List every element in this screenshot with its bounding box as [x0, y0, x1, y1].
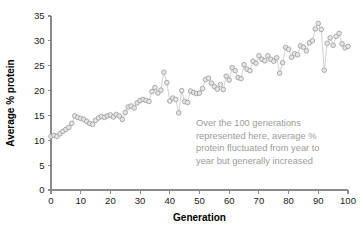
- data-point-marker: [295, 52, 300, 57]
- data-point-marker: [120, 117, 125, 122]
- x-axis-title: Generation: [173, 212, 226, 223]
- x-axis-tick-label: 40: [165, 195, 176, 206]
- data-point-marker: [162, 70, 167, 75]
- y-axis-tick-label: 35: [34, 10, 45, 21]
- data-point-marker: [233, 68, 238, 73]
- data-point-marker: [346, 44, 351, 49]
- data-point-marker: [319, 27, 324, 32]
- data-point-marker: [286, 47, 291, 52]
- x-axis-tick-label: 10: [75, 195, 86, 206]
- chart-canvas: 051015202530350102030405060708090100 Gen…: [0, 0, 364, 231]
- data-point-marker: [221, 87, 226, 92]
- x-axis-tick-label: 0: [48, 195, 53, 206]
- data-point-marker: [215, 87, 220, 92]
- data-point-marker: [340, 42, 345, 47]
- y-axis-tick-label: 10: [34, 135, 45, 146]
- data-point-marker: [176, 111, 181, 116]
- data-point-marker: [263, 58, 268, 63]
- axes: 051015202530350102030405060708090100: [34, 10, 356, 206]
- y-axis-tick-label: 5: [39, 160, 44, 171]
- data-point-marker: [150, 89, 155, 94]
- data-point-marker: [218, 82, 223, 87]
- data-point-marker: [185, 100, 190, 105]
- data-point-marker: [200, 86, 205, 91]
- y-axis-tick-label: 15: [34, 110, 45, 121]
- y-axis-tick-label: 20: [34, 85, 45, 96]
- data-point-marker: [280, 60, 285, 65]
- data-point-marker: [310, 39, 315, 44]
- data-point-marker: [274, 55, 279, 60]
- data-point-marker: [123, 110, 128, 115]
- x-axis-tick-label: 50: [194, 195, 205, 206]
- y-axis-tick-label: 25: [34, 60, 45, 71]
- annotation-line: represented here, average %: [196, 131, 316, 141]
- data-point-marker: [153, 85, 158, 90]
- data-point-marker: [132, 106, 137, 111]
- data-point-marker: [224, 74, 229, 79]
- chart-figure: 051015202530350102030405060708090100 Gen…: [0, 0, 364, 231]
- annotation-line: protein fluctuated from year to: [196, 143, 320, 153]
- x-axis-tick-label: 20: [105, 195, 116, 206]
- x-axis-tick-label: 60: [224, 195, 235, 206]
- data-point-marker: [69, 121, 74, 126]
- data-point-marker: [316, 21, 321, 26]
- data-point-marker: [206, 76, 211, 81]
- y-axis-tick-label: 0: [39, 184, 44, 195]
- data-point-marker: [239, 76, 244, 81]
- annotation-line: Over the 100 generations: [196, 118, 301, 128]
- chart-annotation: Over the 100 generationsrepresented here…: [196, 118, 320, 166]
- data-point-marker: [165, 80, 170, 85]
- data-point-marker: [337, 31, 342, 36]
- data-point-marker: [227, 78, 232, 83]
- data-point-marker: [242, 62, 247, 67]
- data-point-marker: [248, 68, 253, 73]
- data-point-marker: [197, 91, 202, 96]
- data-point-marker: [322, 68, 327, 73]
- data-point-marker: [179, 88, 184, 93]
- data-point-marker: [147, 99, 152, 104]
- data-point-marker: [325, 41, 330, 46]
- data-point-marker: [331, 43, 336, 48]
- annotation-line: year but generally increased: [196, 156, 313, 166]
- data-point-marker: [173, 97, 178, 102]
- data-point-marker: [304, 49, 309, 54]
- x-axis-tick-label: 100: [340, 195, 356, 206]
- data-point-marker: [277, 71, 282, 76]
- y-axis-tick-label: 30: [34, 35, 45, 46]
- data-point-marker: [254, 61, 259, 66]
- data-point-marker: [328, 36, 333, 41]
- data-point-marker: [159, 88, 164, 93]
- x-axis-tick-label: 80: [283, 195, 294, 206]
- x-axis-tick-label: 30: [135, 195, 146, 206]
- data-point-marker: [313, 27, 318, 32]
- data-point-marker: [67, 125, 72, 130]
- x-axis-tick-label: 70: [254, 195, 265, 206]
- y-axis-title: Average % protein: [5, 59, 16, 146]
- x-axis-tick-label: 90: [313, 195, 324, 206]
- data-point-marker: [90, 122, 95, 127]
